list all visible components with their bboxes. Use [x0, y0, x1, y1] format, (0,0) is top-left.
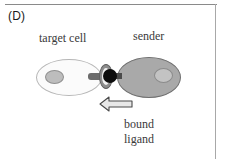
- label-bound-ligand-line2: ligand: [124, 132, 154, 147]
- label-sender: sender: [133, 29, 164, 44]
- figure-panel-d: (D) target cell sender bound ligand: [0, 0, 225, 159]
- target-cell-nucleus: [45, 70, 64, 84]
- panel-border-right: [215, 4, 216, 159]
- label-bound-ligand-line1: bound: [124, 117, 154, 132]
- sender-cell-nucleus: [154, 68, 173, 83]
- label-target-cell: target cell: [39, 31, 86, 46]
- label-bound-ligand: bound ligand: [124, 117, 154, 147]
- panel-letter: (D): [8, 9, 25, 23]
- panel-border-top: [5, 4, 217, 5]
- bound-ligand-dot: [103, 69, 117, 83]
- bound-ligand-arrow-icon: [99, 95, 133, 113]
